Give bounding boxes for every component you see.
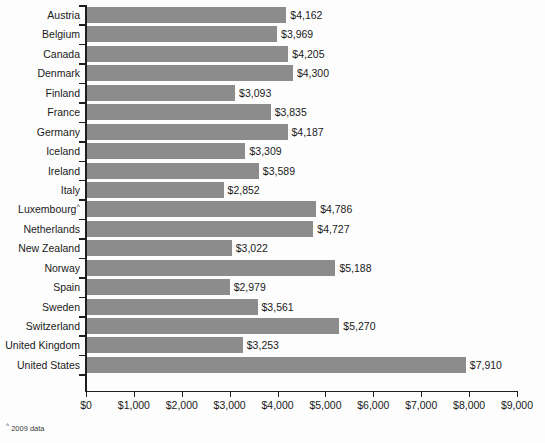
- category-label: Netherlands: [0, 221, 80, 238]
- bar: [87, 279, 230, 295]
- bar: [87, 104, 271, 120]
- chart-row: Iceland$3,309: [0, 142, 545, 161]
- y-axis-tick: [79, 102, 86, 104]
- bar: [87, 163, 259, 179]
- bar-value-label: $2,979: [230, 279, 266, 295]
- y-axis-tick: [79, 355, 86, 357]
- bar: [87, 337, 243, 353]
- chart-row: New Zealand$3,022: [0, 239, 545, 258]
- chart-rows: Austria$4,162Belgium$3,969Canada$4,205De…: [0, 6, 545, 375]
- bar: [87, 240, 232, 256]
- bar-value-label: $4,727: [313, 221, 349, 237]
- category-label: Luxembourg^: [0, 201, 80, 218]
- category-label: Canada: [0, 46, 80, 63]
- x-axis-tick: [182, 391, 183, 397]
- y-axis-tick: [79, 374, 86, 376]
- bar-value-label: $3,969: [277, 26, 313, 42]
- chart-row: Denmark$4,300: [0, 64, 545, 83]
- y-axis-tick: [79, 63, 86, 65]
- bar-value-label: $3,093: [235, 85, 271, 101]
- bar: [87, 85, 235, 101]
- x-axis-tick: [230, 391, 231, 397]
- bar-value-label: $3,589: [259, 163, 295, 179]
- bar-value-label: $3,835: [271, 104, 307, 120]
- y-axis-tick: [79, 199, 86, 201]
- y-axis-tick: [79, 238, 86, 240]
- bar: [87, 201, 316, 217]
- bar: [87, 124, 288, 140]
- chart-row: Norway$5,188: [0, 259, 545, 278]
- bar: [87, 46, 288, 62]
- y-axis-tick: [79, 277, 86, 279]
- bar-chart: Austria$4,162Belgium$3,969Canada$4,205De…: [0, 0, 545, 443]
- bar-value-label: $3,561: [258, 299, 294, 315]
- chart-row: Spain$2,979: [0, 278, 545, 297]
- category-label: Finland: [0, 85, 80, 102]
- bar: [87, 357, 466, 373]
- category-label: Belgium: [0, 26, 80, 43]
- bar-value-label: $7,910: [466, 357, 502, 373]
- bar-value-label: $3,253: [243, 337, 279, 353]
- category-label: United Kingdom: [0, 337, 80, 354]
- bar-value-label: $4,162: [286, 7, 322, 23]
- bar-value-label: $4,300: [293, 65, 329, 81]
- chart-row: Canada$4,205: [0, 45, 545, 64]
- y-axis-tick: [79, 219, 86, 221]
- bar-value-label: $5,188: [335, 260, 371, 276]
- bar-value-label: $3,022: [232, 240, 268, 256]
- category-label: Ireland: [0, 163, 80, 180]
- chart-row: Sweden$3,561: [0, 298, 545, 317]
- bar-value-label: $3,309: [245, 143, 281, 159]
- bar: [87, 182, 224, 198]
- y-axis-tick: [79, 316, 86, 318]
- chart-row: Ireland$3,589: [0, 162, 545, 181]
- chart-row: United Kingdom$3,253: [0, 336, 545, 355]
- chart-row: Netherlands$4,727: [0, 220, 545, 239]
- x-axis-tick: [421, 391, 422, 397]
- bar: [87, 7, 286, 23]
- y-axis-tick: [79, 161, 86, 163]
- y-axis-tick: [79, 44, 86, 46]
- y-axis-tick: [79, 24, 86, 26]
- bar: [87, 221, 313, 237]
- bar: [87, 65, 293, 81]
- chart-row: Austria$4,162: [0, 6, 545, 25]
- bar-value-label: $4,205: [288, 46, 324, 62]
- x-axis-tick: [278, 391, 279, 397]
- category-footnote-mark: ^: [76, 202, 80, 211]
- bar: [87, 318, 339, 334]
- y-axis-tick: [79, 141, 86, 143]
- x-axis-tick: [469, 391, 470, 397]
- bar-value-label: $4,786: [316, 201, 352, 217]
- chart-row: United States$7,910: [0, 356, 545, 375]
- footnote-text: 2009 data: [11, 424, 44, 433]
- category-label: Sweden: [0, 299, 80, 316]
- bar-value-label: $2,852: [224, 182, 260, 198]
- bar: [87, 260, 335, 276]
- chart-footnote: ^ 2009 data: [6, 424, 45, 433]
- footnote-mark: ^: [6, 422, 9, 429]
- x-axis-tick: [325, 391, 326, 397]
- y-axis-tick: [79, 5, 86, 7]
- bar: [87, 143, 245, 159]
- x-axis-tick: [86, 391, 87, 397]
- category-label: Switzerland: [0, 318, 80, 335]
- y-axis-tick: [79, 122, 86, 124]
- chart-row: Switzerland$5,270: [0, 317, 545, 336]
- y-axis-tick: [79, 297, 86, 299]
- bar: [87, 26, 277, 42]
- category-label: Spain: [0, 279, 80, 296]
- bar-value-label: $5,270: [339, 318, 375, 334]
- chart-row: Italy$2,852: [0, 181, 545, 200]
- chart-row: Germany$4,187: [0, 123, 545, 142]
- category-label: Germany: [0, 124, 80, 141]
- category-label: United States: [0, 357, 80, 374]
- chart-row: Finland$3,093: [0, 84, 545, 103]
- category-label: Italy: [0, 182, 80, 199]
- category-label: France: [0, 104, 80, 121]
- chart-row: Luxembourg^$4,786: [0, 200, 545, 219]
- x-axis-tick-label: $9,000: [477, 399, 545, 411]
- chart-row: France$3,835: [0, 103, 545, 122]
- category-label: Iceland: [0, 143, 80, 160]
- chart-row: Belgium$3,969: [0, 25, 545, 44]
